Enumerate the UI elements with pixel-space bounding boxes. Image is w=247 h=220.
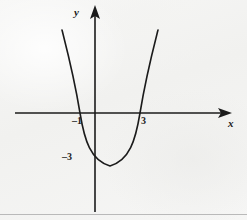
y-tick-label-neg3: –3 xyxy=(62,152,72,162)
x-tick-label-3: 3 xyxy=(141,116,146,126)
x-axis-label: x xyxy=(228,118,234,129)
parabola-figure: y x –1 3 –3 xyxy=(0,0,247,220)
x-tick-label-neg1: –1 xyxy=(72,116,82,126)
y-axis-label: y xyxy=(74,7,79,18)
bottom-divider xyxy=(0,214,247,215)
coordinate-plot xyxy=(0,0,247,220)
parabola-curve xyxy=(62,30,158,166)
